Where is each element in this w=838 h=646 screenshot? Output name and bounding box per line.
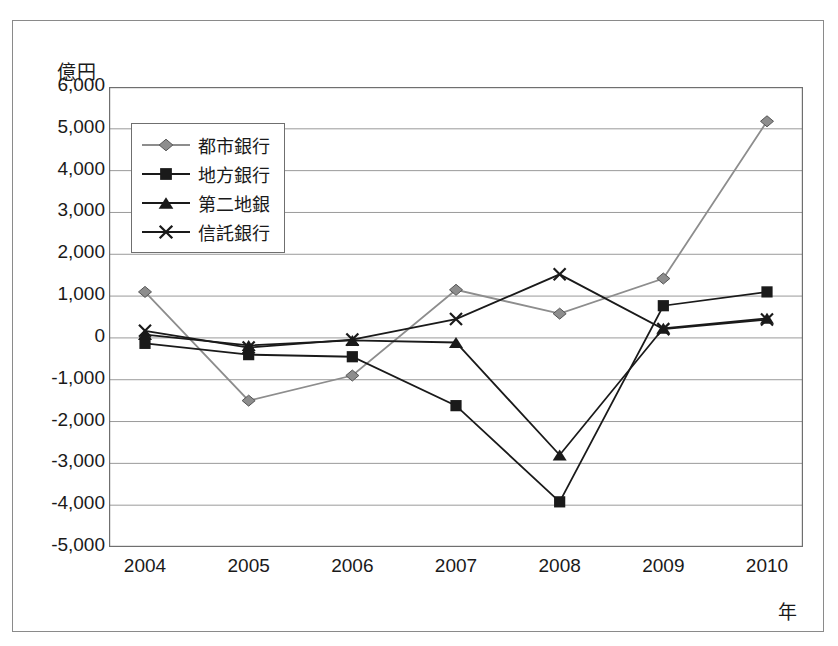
data-point-marker [450,400,461,411]
y-axis-tick-label: -2,000 [19,409,105,431]
y-axis-tick-label: 4,000 [19,158,105,180]
y-axis-tick-label: -3,000 [19,450,105,472]
x-axis-tick-labels: 2004200520062007200820092010 [109,555,803,585]
chart-legend: 都市銀行地方銀行第二地銀信託銀行 [131,123,285,253]
y-axis-tick-label: 3,000 [19,199,105,221]
y-axis-tick-label: 5,000 [19,116,105,138]
x-axis-tick-label: 2005 [209,555,289,577]
data-point-marker [658,300,669,311]
y-axis-tick-labels: 6,0005,0004,0003,0002,0001,0000-1,000-2,… [13,87,105,547]
data-point-marker [553,308,566,319]
square-marker-icon [140,164,192,184]
legend-item: 信託銀行 [140,217,270,246]
y-axis-tick-label: 6,000 [19,74,105,96]
y-axis-tick-label: -4,000 [19,492,105,514]
legend-item-label: 信託銀行 [192,219,270,245]
y-axis-tick-label: -1,000 [19,367,105,389]
series-line [145,292,767,502]
triangle-marker-icon [140,193,192,213]
data-point-marker [554,496,565,507]
legend-item: 第二地銀 [140,188,270,217]
figure-frame: 億円 6,0005,0004,0003,0002,0001,0000-1,000… [12,20,824,632]
data-point-marker [761,286,772,297]
data-point-marker [657,273,670,284]
x-axis-tick-label: 2004 [105,555,185,577]
x-axis-tick-label: 2009 [623,555,703,577]
legend-item-label: 地方銀行 [192,161,270,187]
data-point-marker [347,351,358,362]
x-marker-icon [140,222,192,242]
y-axis-tick-label: -5,000 [19,534,105,556]
data-series [138,313,774,461]
x-axis-tick-label: 2008 [520,555,600,577]
x-axis-tick-label: 2007 [416,555,496,577]
data-point-marker [761,116,774,127]
legend-item: 地方銀行 [140,159,270,188]
y-axis-tick-label: 2,000 [19,241,105,263]
y-axis-tick-label: 0 [19,325,105,347]
legend-item-label: 都市銀行 [192,132,270,158]
legend-item-label: 第二地銀 [192,190,270,216]
data-point-marker [554,268,566,280]
x-axis-tick-label: 2010 [727,555,807,577]
x-axis-name-label: 年 [778,597,797,624]
data-point-marker [553,450,567,461]
y-axis-tick-label: 1,000 [19,283,105,305]
legend-item: 都市銀行 [140,130,270,159]
x-axis-tick-label: 2006 [312,555,392,577]
diamond-marker-icon [140,135,192,155]
